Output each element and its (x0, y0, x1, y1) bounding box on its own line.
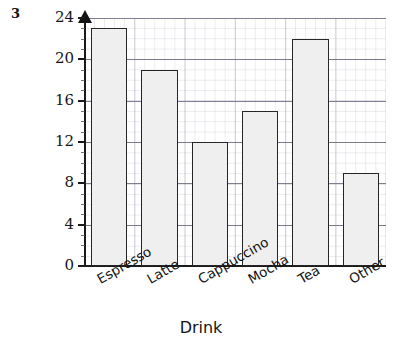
y-axis-minor-tick (81, 245, 85, 246)
bar (192, 142, 228, 266)
y-axis-tick (78, 265, 85, 267)
y-axis-minor-tick (81, 111, 85, 112)
y-axis-tick (78, 141, 85, 143)
bar (141, 70, 177, 266)
y-axis-minor-tick (81, 152, 85, 153)
gridline-major (84, 59, 386, 60)
bar (292, 39, 328, 266)
y-axis-minor-tick (81, 39, 85, 40)
graph-paper-grid (84, 18, 386, 267)
y-axis-minor-tick (81, 132, 85, 133)
y-axis-minor-tick (81, 204, 85, 205)
y-axis-minor-tick (81, 49, 85, 50)
y-axis-tick-label: 8 (40, 175, 74, 190)
bar-chart-figure: 3 Frequency Drink 04812162024EspressoLat… (0, 0, 402, 343)
y-axis-tick (78, 100, 85, 102)
x-axis-title: Drink (0, 318, 402, 337)
y-axis-tick-label: 4 (40, 217, 74, 232)
y-axis-tick-label: 0 (40, 258, 74, 273)
bar (343, 173, 379, 266)
y-axis-minor-tick (81, 235, 85, 236)
y-axis-minor-tick (81, 194, 85, 195)
y-axis-tick (78, 224, 85, 226)
bar (91, 28, 127, 266)
gridline-major (84, 142, 386, 143)
y-axis-minor-tick (81, 214, 85, 215)
y-axis-minor-tick (81, 90, 85, 91)
gridline-major (84, 18, 386, 19)
y-axis-tick-label: 16 (40, 93, 74, 108)
y-axis-tick-label: 12 (40, 134, 74, 149)
gridline-major (84, 101, 386, 102)
y-axis-tick (78, 58, 85, 60)
y-axis-minor-tick (81, 163, 85, 164)
y-axis-minor-tick (81, 256, 85, 257)
y-axis-minor-tick (81, 70, 85, 71)
y-axis-minor-tick (81, 121, 85, 122)
y-axis-tick-label: 24 (40, 10, 74, 25)
y-axis-tick (78, 17, 85, 19)
y-axis-minor-tick (81, 80, 85, 81)
question-number: 3 (11, 6, 20, 21)
y-axis-tick (78, 182, 85, 184)
y-axis-minor-tick (81, 28, 85, 29)
y-axis-tick-label: 20 (40, 51, 74, 66)
gridline-major (84, 225, 386, 226)
y-axis-minor-tick (81, 173, 85, 174)
gridline-major (84, 183, 386, 184)
